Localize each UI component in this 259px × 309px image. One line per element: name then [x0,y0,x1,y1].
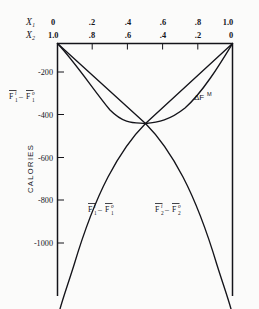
x1-tick-0: 0 [51,18,55,27]
f1-base2: F [105,205,110,214]
x1-tick-4: .8 [195,18,201,27]
y-tick-label-4: -1000 [34,239,53,248]
x1-tick-5: 1.0 [223,18,233,27]
x1-label-text: X₁ [25,16,35,27]
x1-tick-3: .6 [160,18,166,27]
y-axis-ticks [58,72,65,243]
delta-fm-annotation: ΔF M [194,91,212,103]
free-energy-chart: X₁ X₂ 0 .2 .4 .6 .8 1.0 1.0 .8 .6 .4 .2 … [0,0,259,309]
y-tick-label-3: -800 [38,196,53,205]
f2-base: F [155,205,160,214]
top-axis-ticks [92,44,198,50]
f1-minus: – [97,205,102,214]
f1-outer-minus: – [18,92,23,101]
x2-tick-0: 1.0 [48,31,58,40]
x2-tick-2: .6 [125,31,131,40]
delta-fm-superscript: M [207,91,212,97]
y-axis-title: CALORIES [26,144,35,193]
f1-outer-base: F [9,92,14,101]
delta-fm-text: ΔF [194,93,204,102]
f2-base2: F [172,205,177,214]
curve-delta-fm [58,44,233,124]
f1-outer-annotation: F 1 i – F 1 o [9,90,35,103]
x1-tick-2: .4 [125,18,132,27]
f1-sub: 1 [94,210,97,216]
x2-tick-labels: 1.0 .8 .6 .4 .2 0 [48,31,233,40]
x2-axis-label: X₂ [25,29,36,40]
f2-sub2: 2 [178,210,181,216]
x1-tick-1: .2 [89,18,95,27]
f1-outer-sub: 1 [15,97,18,103]
y-tick-labels: -200 -400 -600 -800 -1000 [34,68,53,248]
x2-tick-3: .4 [160,31,167,40]
y-tick-label-1: -400 [38,111,53,120]
figure-page: X₁ X₂ 0 .2 .4 .6 .8 1.0 1.0 .8 .6 .4 .2 … [0,0,259,309]
x1-tick-labels: 0 .2 .4 .6 .8 1.0 [51,18,233,27]
f2-curve-annotation: F 2 i – F 2 o [155,203,181,216]
x1-axis-label: X₁ [25,16,35,27]
f2-minus: – [164,205,169,214]
f2-sub: 2 [161,210,164,216]
f1-base: F [88,205,93,214]
f1-sub2: 1 [111,210,114,216]
x2-tick-4: .2 [195,31,201,40]
curve-f1-partial [58,44,232,309]
f1-outer-sub2: 1 [32,97,35,103]
x2-tick-1: .8 [89,31,95,40]
x2-label-text: X₂ [25,29,36,40]
y-tick-label-0: -200 [38,68,53,77]
x2-tick-5: 0 [229,31,233,40]
f1-outer-base2: F [26,92,31,101]
f1-curve-annotation: F 1 i – F 1 o [88,203,114,216]
y-tick-label-2: -600 [38,154,53,163]
